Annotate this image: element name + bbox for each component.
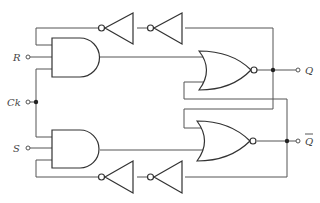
inverter-bottom-1 xyxy=(99,161,134,193)
nor-gate-bottom xyxy=(197,121,250,161)
inverter-bottom-2 xyxy=(148,161,183,193)
s-label: S xyxy=(13,143,20,154)
ck-junction-dot xyxy=(34,100,38,104)
inverter-top-1 xyxy=(99,13,134,44)
qbar-label: Q xyxy=(305,136,313,147)
ck-label: Ck xyxy=(7,97,21,108)
r-label: R xyxy=(12,52,21,63)
and-gate-bottom xyxy=(52,130,99,168)
r-terminal xyxy=(26,55,30,59)
q-terminal xyxy=(296,68,300,72)
s-terminal xyxy=(26,146,30,150)
ck-terminal xyxy=(26,100,30,104)
qbar-terminal xyxy=(296,139,300,143)
qbar-junction-dot xyxy=(285,139,289,143)
nor-gate-top xyxy=(199,51,251,90)
nor-bottom-bubble xyxy=(250,138,256,144)
and-gate-top xyxy=(52,38,100,77)
q-junction-dot xyxy=(271,68,275,72)
circuit-diagram: R Ck S Q Q xyxy=(0,0,320,203)
q-label: Q xyxy=(305,65,313,76)
inverter-top-2 xyxy=(148,13,183,44)
nor-top-bubble xyxy=(251,67,257,73)
